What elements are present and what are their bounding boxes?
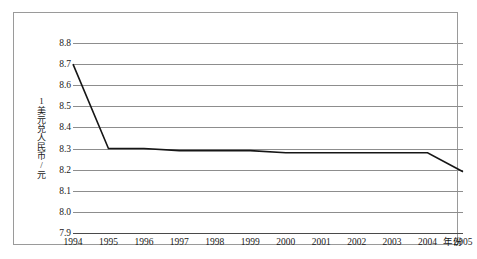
x-tick-label: 1999 — [233, 236, 267, 249]
chart-outer-frame: 1美元兑人民币/元 8.88.78.68.58.48.38.28.18.07.9… — [13, 12, 458, 245]
y-tick-label: 8.4 — [47, 122, 71, 132]
y-tick-label: 8.8 — [47, 38, 71, 48]
x-tick-label: 1998 — [198, 236, 232, 249]
y-tick-label: 8.5 — [47, 101, 71, 111]
x-tick-label: 1994 — [56, 236, 90, 249]
y-tick-label: 8.7 — [47, 59, 71, 69]
y-axis-tick-labels: 8.88.78.68.58.48.38.28.18.07.9 — [47, 43, 71, 233]
data-series-line — [73, 43, 463, 233]
series-polyline — [73, 64, 463, 172]
x-tick-label: 2000 — [269, 236, 303, 249]
y-tick-label: 8.1 — [47, 186, 71, 196]
y-tick-label: 8.6 — [47, 80, 71, 90]
y-tick-label: 8.0 — [47, 207, 71, 217]
x-axis-tick-labels: 1994199519961997199819992000200120022003… — [73, 236, 463, 252]
x-tick-label: 2001 — [304, 236, 338, 249]
plot-area — [73, 43, 463, 233]
y-tick-label: 8.3 — [47, 144, 71, 154]
x-tick-label: 2002 — [340, 236, 374, 249]
x-axis-title: 年份 — [443, 236, 463, 249]
x-tick-label: 1997 — [162, 236, 196, 249]
y-tick-label: 8.2 — [47, 165, 71, 175]
x-tick-label: 1995 — [91, 236, 125, 249]
gridline-7-9 — [73, 233, 463, 234]
x-tick-label: 2003 — [375, 236, 409, 249]
x-tick-label: 2004 — [411, 236, 445, 249]
x-tick-label: 1996 — [127, 236, 161, 249]
